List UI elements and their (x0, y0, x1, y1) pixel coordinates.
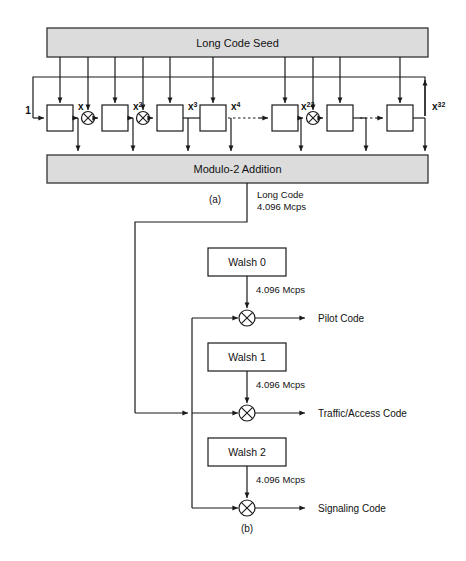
long-code-seed-label: Long Code Seed (196, 37, 279, 49)
register-box (327, 105, 353, 131)
walsh-0-rate-label: 4.096 Mcps (256, 284, 305, 295)
tap-label-x4: x4 (231, 101, 241, 112)
traffic-access-code-label: Traffic/Access Code (318, 408, 407, 419)
feedback-bus (33, 77, 425, 118)
signaling-code-label: Signaling Code (318, 503, 386, 514)
xor-gate-pilot (239, 310, 255, 326)
input-one-label: 1 (25, 105, 31, 116)
tap-label-x1: x (78, 101, 84, 112)
register-box (102, 105, 128, 131)
long-code-output-label: Long Code 4.096 Mcps (257, 189, 306, 212)
xor-gate-signaling (239, 500, 255, 516)
walsh-0-label: Walsh 0 (228, 256, 266, 268)
register-box (272, 105, 298, 131)
branch-signaling: Walsh 2 4.096 Mcps Signaling Code (208, 438, 386, 516)
xor-gate-a1 (82, 112, 95, 125)
xor-gate-a2 (137, 112, 150, 125)
register-box (387, 105, 413, 131)
walsh-1-label: Walsh 1 (228, 351, 266, 363)
tap-down-wires (78, 118, 425, 151)
register-box (157, 105, 183, 131)
xor-gate-traffic (239, 405, 255, 421)
register-box (200, 105, 226, 131)
long-code-rate-label: 4.096 Mcps (257, 201, 306, 212)
caption-b: (b) (241, 523, 253, 534)
caption-a: (a) (209, 194, 221, 205)
modulo-2-addition-label: Modulo-2 Addition (193, 163, 281, 175)
tap-label-x3: x3 (188, 101, 198, 112)
walsh-2-rate-label: 4.096 Mcps (256, 474, 305, 485)
seed-feed-arrows-xor (88, 57, 313, 110)
seed-feed-arrows (60, 57, 400, 103)
long-code-distribution-wire (135, 183, 247, 413)
branch-traffic: Walsh 1 4.096 Mcps Traffic/Access Code (208, 343, 407, 421)
tap-label-x2: x2 (133, 101, 143, 112)
modulo-2-addition-box: Modulo-2 Addition (47, 155, 428, 183)
walsh-2-label: Walsh 2 (228, 446, 266, 458)
long-code-seed-box: Long Code Seed (47, 28, 428, 57)
long-code-generator-diagram: Long Code Seed 1 (0, 0, 466, 561)
register-box (47, 105, 73, 131)
tap-label-x32: x32 (432, 101, 445, 112)
long-code-label: Long Code (257, 189, 303, 200)
pilot-code-label: Pilot Code (318, 313, 365, 324)
walsh-1-rate-label: 4.096 Mcps (256, 379, 305, 390)
branch-pilot: Walsh 0 4.096 Mcps Pilot Code (208, 248, 365, 326)
tap-label-x22: x22 (301, 101, 314, 112)
xor-gate-a3 (307, 112, 320, 125)
